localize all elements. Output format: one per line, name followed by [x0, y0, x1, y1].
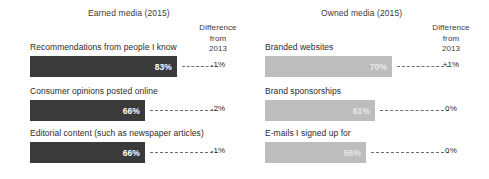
bar-category-label: E-mails I signed up for	[265, 128, 351, 138]
bar-chart: Earned media (2015) Difference from 2013…	[0, 0, 489, 179]
bar-value-label: 66%	[123, 148, 145, 158]
bar-category-label: Brand sponsorships	[265, 86, 341, 96]
panel-title-earned-media: Earned media (2015)	[88, 8, 170, 18]
bar-category-label: Branded websites	[265, 42, 333, 52]
bar-category-label: Editorial content (such as newspaper art…	[30, 128, 204, 138]
difference-value: -1%	[190, 60, 246, 69]
difference-value: 0%	[423, 104, 479, 113]
bar: 66%	[30, 142, 145, 163]
bar: 56%	[265, 142, 366, 163]
bar: 66%	[30, 100, 145, 121]
bar-value-label: 83%	[155, 62, 177, 72]
bar-value-label: 66%	[123, 106, 145, 116]
bar: 61%	[265, 100, 375, 121]
difference-header-line-1: Difference	[423, 23, 479, 34]
bar-value-label: 61%	[353, 106, 375, 116]
bar-row: Recommendations from people I know 83% -…	[0, 42, 245, 87]
bar-value-label: 56%	[344, 148, 366, 158]
difference-value: -1%	[190, 146, 246, 155]
difference-header-line-1: Difference	[190, 23, 246, 34]
difference-value: +1%	[423, 60, 479, 69]
bar-row: Brand sponsorships 61% 0%	[245, 86, 489, 131]
bar-row: Editorial content (such as newspaper art…	[0, 128, 245, 173]
bar: 70%	[265, 56, 392, 77]
bar-row: Branded websites 70% +1%	[245, 42, 489, 87]
bar-row: E-mails I signed up for 56% 0%	[245, 128, 489, 173]
bar-category-label: Consumer opinions posted online	[30, 86, 158, 96]
panel-owned-media: Owned media (2015) Difference from 2013 …	[245, 0, 489, 179]
bar: 83%	[30, 56, 177, 77]
bar-row: Consumer opinions posted online 66% -2%	[0, 86, 245, 131]
difference-value: -2%	[190, 104, 246, 113]
panel-earned-media: Earned media (2015) Difference from 2013…	[0, 0, 245, 179]
panel-title-owned-media: Owned media (2015)	[321, 8, 402, 18]
difference-value: 0%	[423, 146, 479, 155]
bar-category-label: Recommendations from people I know	[30, 42, 177, 52]
bar-value-label: 70%	[370, 62, 392, 72]
